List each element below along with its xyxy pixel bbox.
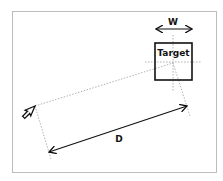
distance-label: D — [115, 134, 122, 144]
target-label: Target — [157, 48, 190, 58]
fitts-law-diagram: Target W D — [0, 0, 223, 181]
width-label: W — [168, 17, 178, 27]
diagram-frame — [13, 12, 217, 173]
